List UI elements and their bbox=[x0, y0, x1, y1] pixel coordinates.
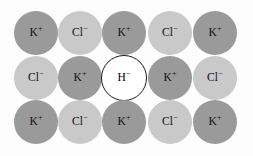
ion-r2c3: H− bbox=[101, 55, 147, 101]
ion-symbol: K bbox=[29, 115, 38, 127]
ion-r3c1: K+ bbox=[14, 100, 58, 144]
ion-charge: − bbox=[173, 24, 178, 33]
ion-charge: + bbox=[38, 24, 43, 33]
ion-symbol: Cl bbox=[207, 71, 218, 83]
ion-symbol: K bbox=[117, 26, 126, 38]
ion-symbol: Cl bbox=[162, 115, 173, 127]
ion-label-r1c4: Cl− bbox=[162, 27, 178, 39]
ion-charge: + bbox=[217, 113, 222, 122]
ion-r3c2: Cl− bbox=[58, 100, 102, 144]
ion-r1c3: K+ bbox=[102, 11, 146, 55]
ion-symbol: K bbox=[208, 26, 217, 38]
ion-label-r2c5: Cl− bbox=[207, 72, 223, 84]
ion-charge: − bbox=[218, 69, 223, 78]
ion-charge: − bbox=[83, 24, 88, 33]
ion-symbol: Cl bbox=[28, 71, 39, 83]
ion-r2c1: Cl− bbox=[14, 56, 58, 100]
ion-label-r2c3: H− bbox=[117, 72, 130, 84]
ion-charge: + bbox=[38, 113, 43, 122]
ion-symbol: K bbox=[117, 115, 126, 127]
ion-symbol: K bbox=[163, 71, 172, 83]
ion-charge: − bbox=[39, 69, 44, 78]
ion-r3c4: Cl− bbox=[148, 100, 192, 144]
ion-r3c3: K+ bbox=[102, 100, 146, 144]
ion-charge: + bbox=[217, 24, 222, 33]
ion-label-r2c2: K+ bbox=[73, 72, 86, 84]
ion-label-r3c2: Cl− bbox=[72, 116, 88, 128]
ion-label-r3c3: K+ bbox=[117, 116, 130, 128]
lattice-diagram: K+Cl−K+Cl−K+Cl−K+H−K+Cl−K+Cl−K+Cl−K+ bbox=[0, 0, 253, 156]
ion-charge: − bbox=[173, 113, 178, 122]
ion-charge: + bbox=[126, 24, 131, 33]
ion-r1c4: Cl− bbox=[148, 11, 192, 55]
ion-symbol: Cl bbox=[72, 26, 83, 38]
ion-charge: + bbox=[82, 69, 87, 78]
ion-label-r1c3: K+ bbox=[117, 27, 130, 39]
ion-charge: − bbox=[83, 113, 88, 122]
ion-label-r3c5: K+ bbox=[208, 116, 221, 128]
ion-r3c5: K+ bbox=[193, 100, 237, 144]
ion-label-r3c1: K+ bbox=[29, 116, 42, 128]
ion-symbol: Cl bbox=[72, 115, 83, 127]
ion-symbol: Cl bbox=[162, 26, 173, 38]
ion-charge: − bbox=[126, 69, 131, 78]
ion-charge: + bbox=[172, 69, 177, 78]
ion-r1c2: Cl− bbox=[58, 11, 102, 55]
ion-r1c1: K+ bbox=[14, 11, 58, 55]
ion-label-r2c1: Cl− bbox=[28, 72, 44, 84]
ion-label-r3c4: Cl− bbox=[162, 116, 178, 128]
ion-r2c2: K+ bbox=[58, 56, 102, 100]
ion-symbol: K bbox=[208, 115, 217, 127]
ion-r2c4: K+ bbox=[148, 56, 192, 100]
ion-charge: + bbox=[126, 113, 131, 122]
ion-label-r2c4: K+ bbox=[163, 72, 176, 84]
ion-label-r1c2: Cl− bbox=[72, 27, 88, 39]
ion-r1c5: K+ bbox=[193, 11, 237, 55]
ion-label-r1c1: K+ bbox=[29, 27, 42, 39]
ion-r2c5: Cl− bbox=[193, 56, 237, 100]
ion-symbol: K bbox=[29, 26, 38, 38]
ion-symbol: K bbox=[73, 71, 82, 83]
ion-symbol: H bbox=[117, 71, 126, 83]
ion-label-r1c5: K+ bbox=[208, 27, 221, 39]
